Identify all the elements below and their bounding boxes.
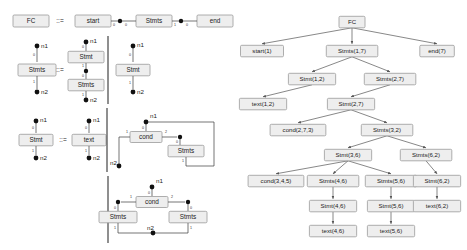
tree-node-t15-label: Stmt(6,2)	[424, 177, 449, 184]
stmts-seq-n1: n1	[90, 37, 97, 44]
rule-fc-node-start-label: start	[87, 17, 100, 24]
rule-stmts-lhs-port-0: 0	[33, 53, 35, 57]
rule-stmts-lhs-n2: n2	[41, 88, 48, 95]
tree-node-t14: Stmts(5,6)	[365, 175, 417, 187]
tree-node-t11-label: Stmts(6,2)	[412, 151, 440, 158]
stmt-text-box-label: text	[84, 136, 95, 143]
tree-node-t12: cond(3,4,5)	[248, 175, 304, 187]
stmt-text-dot-n1	[87, 119, 92, 124]
stmts-seq-port-1b: 1	[82, 93, 84, 97]
tree-edge-t2-t5	[352, 57, 390, 72]
stmts-seq-box-stmt-label: Stmt	[79, 53, 92, 60]
rule-stmt-lhs-port-1: 1	[32, 149, 34, 153]
tree-node-t7: Stmt(2,7)	[327, 98, 374, 110]
tree-node-t13-label: Stmts(4,6)	[319, 177, 347, 184]
stmts-seq-port-0b: 0	[82, 74, 84, 78]
stmt-text-n1: n1	[93, 116, 100, 123]
rule-fc-lhs: FC	[13, 15, 49, 27]
tree-node-t6-label: text(1,2)	[252, 100, 274, 107]
tree-edge-t9-t10	[348, 136, 387, 148]
rule-fc-dot-2	[179, 19, 183, 23]
stmt-loop-box-stmts-label: Stmts	[178, 147, 194, 154]
stmt-loop-port-0: 0	[142, 126, 144, 130]
stmt-branch-port-1r: 1	[190, 226, 192, 230]
tree-edge-t7-t9	[351, 110, 387, 123]
stmts-single-n2: n2	[137, 88, 144, 95]
tree-node-t3: end(7)	[420, 45, 455, 57]
stmt-loop-dot-n2	[117, 164, 122, 169]
rule-stmt-assign: ::=	[59, 136, 67, 143]
rule-stmt-lhs-n2: n2	[40, 154, 47, 161]
tree-node-t1: start(1)	[241, 45, 284, 57]
tree-node-t9-label: Stmts(3,2)	[373, 126, 401, 133]
tree-node-t6: text(1,2)	[239, 98, 286, 110]
tree-node-t0: FC	[339, 16, 365, 28]
stmt-loop-port-1: 1	[126, 130, 128, 134]
tree-edge-t9-t11	[387, 136, 426, 148]
stmt-loop-port-0b: 0	[176, 140, 178, 144]
stmts-single-dot-n2	[131, 90, 136, 95]
rule-stmt-lhs-dot-n1	[34, 119, 39, 124]
tree-node-t2-label: Stmts(1,7)	[338, 47, 366, 54]
stmt-branch-box-stmts-right-label: Stmts	[180, 213, 196, 220]
stmt-loop-n2: n2	[110, 159, 117, 166]
rule-stmts-lhs-dot-n2	[35, 90, 40, 95]
tree-node-t13: Stmts(4,6)	[307, 175, 359, 187]
tree-node-t2: Stmts(1,7)	[326, 45, 378, 57]
tree-node-t10: Stmt(3,6)	[324, 149, 371, 161]
tree-node-t0-label: FC	[348, 18, 357, 25]
stmt-branch-port-2: 2	[171, 195, 173, 199]
stmt-branch-n1: n1	[156, 177, 163, 184]
rule-stmt-lhs-port-0: 0	[32, 126, 34, 130]
rule-stmt-lhs-dot-n2	[34, 156, 39, 161]
rule-fc-assign: ::=	[56, 17, 64, 24]
tree-node-t15: Stmt(6,2)	[413, 175, 460, 187]
stmt-branch-dot-n2	[151, 231, 156, 236]
stmt-text-dot-n2	[87, 156, 92, 161]
tree-node-t20: text(5,6)	[367, 225, 414, 237]
stmt-branch-port-0l: 0	[114, 206, 116, 210]
stmt-branch-box-stmts-left-label: Stmts	[110, 213, 126, 220]
rule-fc-node-stmts: Stmts	[136, 15, 172, 27]
rule-stmts-lhs-box: Stmts	[18, 64, 56, 76]
tree-node-t9: Stmts(3,2)	[361, 124, 413, 136]
rule-stmt-lhs-n1: n1	[40, 116, 47, 123]
tree-edge-t10-t12	[276, 161, 348, 174]
tree-node-t4: Stmt(1,2)	[288, 73, 335, 85]
rule-fc-port-0b: 0	[125, 23, 127, 27]
tree-node-t5-label: Stmts(2,7)	[376, 75, 404, 82]
tree-node-t7-label: Stmt(2,7)	[338, 100, 363, 107]
stmt-branch-port-1l: 1	[114, 226, 116, 230]
rule-fc-node-end: end	[197, 15, 233, 27]
stmts-seq-box-stmt: Stmt	[68, 51, 104, 63]
rule-stmt-lhs-box-label: Stmt	[29, 136, 42, 143]
tree-edge-t10-t14	[348, 161, 391, 174]
stmt-branch-port-0r: 0	[190, 206, 192, 210]
tree-edge-t0-t1	[262, 28, 352, 44]
stmt-loop-box-cond-label: cond	[139, 133, 153, 140]
stmts-single-box-stmt: Stmt	[116, 64, 150, 76]
stmts-seq-dot-n1	[84, 40, 89, 45]
tree-node-t18: text(6,2)	[413, 200, 460, 212]
stmts-seq-dot-mid	[84, 69, 88, 73]
stmt-branch-n2: n2	[147, 224, 154, 231]
stmt-loop-e-feedback	[148, 122, 214, 166]
stmt-branch-box-stmts-right: Stmts	[169, 211, 207, 223]
figure-root: FC::=startStmtsend0010n10Stmts1n2::=n10S…	[0, 0, 467, 250]
stmt-branch-port-1: 1	[130, 195, 132, 199]
stmts-seq-box-stmts-label: Stmts	[78, 81, 94, 88]
rule-fc-port-1a: 1	[174, 23, 176, 27]
tree-node-t10-label: Stmt(3,6)	[335, 151, 360, 158]
stmts-single-dot-n1	[131, 44, 136, 49]
tree-edge-t5-t7	[351, 85, 390, 97]
rule-fc-dot-1	[118, 19, 122, 23]
tree-node-t11: Stmts(6,2)	[400, 149, 452, 161]
stmt-loop-box-stmts: Stmts	[168, 145, 204, 157]
tree-node-t17-label: Stmt(5,6)	[378, 202, 403, 209]
rule-stmts-lhs-box-label: Stmts	[29, 66, 45, 73]
stmt-text-n2: n2	[93, 154, 100, 161]
rule-stmts-lhs-n1: n1	[41, 42, 48, 49]
tree-node-t8: cond(2,7,3)	[270, 124, 326, 136]
stmt-branch-box-cond-label: cond	[145, 198, 159, 205]
stmt-loop-dot-n1	[144, 120, 149, 125]
